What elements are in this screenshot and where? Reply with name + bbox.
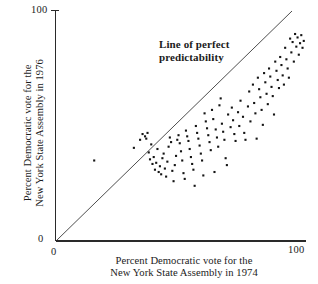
scatter-point xyxy=(269,76,271,78)
scatter-point xyxy=(204,112,206,114)
scatter-point xyxy=(184,178,186,180)
scatter-point xyxy=(139,139,141,141)
x-axis-title: Percent Democratic vote for the New York… xyxy=(59,255,309,279)
scatter-point xyxy=(176,139,178,141)
scatter-point xyxy=(263,72,265,74)
scatter-point xyxy=(280,64,282,66)
scatter-point xyxy=(279,56,281,58)
scatter-point xyxy=(290,51,292,53)
scatter-point xyxy=(166,161,168,163)
scatter-plot-figure: 100 0 0 100 Line of perfect predictabili… xyxy=(0,0,318,284)
scatter-point xyxy=(223,139,225,141)
scatter-point xyxy=(274,61,276,63)
scatter-point xyxy=(232,119,234,121)
reference-line-annotation: Line of perfect predictability xyxy=(159,38,230,64)
scatter-point xyxy=(272,95,274,97)
scatter-point xyxy=(267,103,269,105)
scatter-point xyxy=(169,136,171,138)
scatter-point xyxy=(159,165,161,167)
scatter-point xyxy=(213,171,215,173)
scatter-point xyxy=(287,67,289,69)
scatter-point xyxy=(208,141,210,143)
scatter-point xyxy=(192,169,194,171)
scatter-point xyxy=(201,159,203,161)
scatter-point xyxy=(268,67,270,69)
scatter-point xyxy=(247,105,249,107)
scatter-point xyxy=(244,139,246,141)
scatter-point xyxy=(284,47,286,49)
y-axis-tick-label-100: 100 xyxy=(31,4,47,16)
scatter-point xyxy=(156,148,158,150)
scatter-point xyxy=(295,46,297,48)
scatter-point xyxy=(262,124,264,126)
scatter-point xyxy=(182,172,184,174)
scatter-point xyxy=(266,93,268,95)
scatter-point xyxy=(301,47,303,49)
scatter-point xyxy=(278,87,280,89)
scatter-point xyxy=(261,109,263,111)
scatter-point xyxy=(217,146,219,148)
scatter-point xyxy=(142,133,144,135)
scatter-point xyxy=(199,145,201,147)
scatter-point xyxy=(194,185,196,187)
scatter-point xyxy=(257,77,259,79)
scatter-point xyxy=(299,42,301,44)
scatter-point xyxy=(195,125,197,127)
scatter-point xyxy=(200,153,202,155)
scatter-point xyxy=(187,140,189,142)
scatter-point xyxy=(158,171,160,173)
scatter-point xyxy=(270,86,272,88)
annotation-line-2: predictability xyxy=(159,51,230,64)
x-axis-tick-label-100: 100 xyxy=(288,244,304,256)
scatter-point xyxy=(179,142,181,144)
x-axis-tick-label-0: 0 xyxy=(51,246,56,258)
scatter-point xyxy=(222,131,224,133)
scatter-point xyxy=(180,150,182,152)
scatter-point xyxy=(151,163,153,165)
scatter-point xyxy=(300,34,302,36)
scatter-point xyxy=(252,84,254,86)
scatter-point xyxy=(196,132,198,134)
scatter-point xyxy=(238,125,240,127)
scatter-point xyxy=(186,135,188,137)
scatter-point xyxy=(256,138,258,140)
scatter-point xyxy=(298,54,300,56)
scatter-point xyxy=(242,116,244,118)
x-axis-title-line-1: Percent Democratic vote for the xyxy=(59,255,309,267)
scatter-point xyxy=(243,132,245,134)
scatter-point xyxy=(210,149,212,151)
scatter-point xyxy=(226,164,228,166)
scatter-point xyxy=(175,155,177,157)
scatter-point xyxy=(231,107,233,109)
scatter-point xyxy=(237,111,239,113)
scatter-point xyxy=(297,36,299,38)
scatter-point xyxy=(207,134,209,136)
scatter-point xyxy=(212,118,214,120)
scatter-point xyxy=(189,148,191,150)
scatter-point xyxy=(235,140,237,142)
scatter-point xyxy=(202,174,204,176)
scatter-point xyxy=(181,159,183,161)
scatter-point xyxy=(164,168,166,170)
scatter-point xyxy=(146,132,148,134)
scatter-point xyxy=(144,135,146,137)
scatter-point xyxy=(294,33,296,35)
scatter-point xyxy=(206,127,208,129)
scatter-point xyxy=(282,74,284,76)
scatter-point xyxy=(273,113,275,115)
scatter-point xyxy=(258,88,260,90)
scatter-point xyxy=(165,176,167,178)
scatter-point xyxy=(153,156,155,158)
scatter-point xyxy=(149,158,151,160)
scatter-point xyxy=(133,147,135,149)
scatter-point xyxy=(150,143,152,145)
scatter-point xyxy=(292,41,294,43)
scatter-point xyxy=(253,102,255,104)
scatter-point xyxy=(215,128,217,130)
scatter-point xyxy=(174,164,176,166)
scatter-point xyxy=(190,156,192,158)
scatter-point xyxy=(191,163,193,165)
scatter-point xyxy=(233,133,235,135)
scatter-point xyxy=(161,157,163,159)
scatter-point xyxy=(218,104,220,106)
